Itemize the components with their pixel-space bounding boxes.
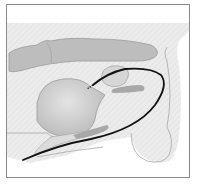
anatomy-illustration [7,5,190,178]
illustration-frame [6,4,190,178]
